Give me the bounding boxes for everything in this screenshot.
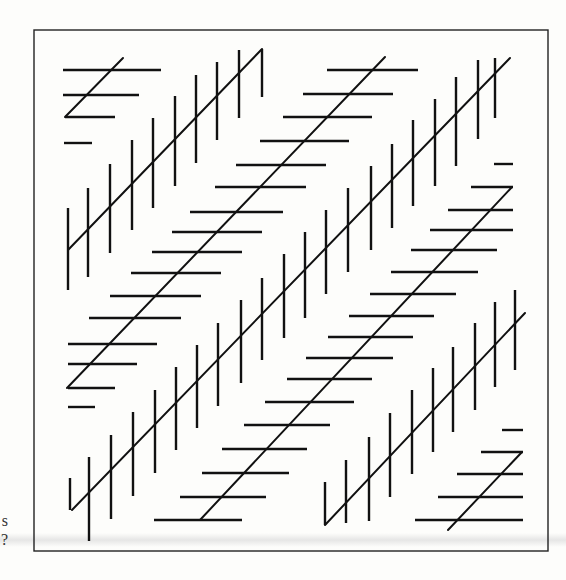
diagonal-line	[68, 49, 262, 250]
band-f-vertical-ticks	[325, 290, 525, 525]
band-e-horizontal-ticks	[154, 164, 513, 520]
diagonal-line	[65, 58, 123, 117]
margin-text-question: ?	[0, 532, 8, 548]
diagonal-line	[72, 58, 510, 510]
document-page: s ?	[0, 0, 566, 580]
diagonal-line	[200, 187, 512, 520]
band-d-vertical-ticks	[70, 58, 510, 541]
band-g-horizontal-ticks	[415, 430, 523, 530]
hatched-bands	[63, 49, 525, 541]
band-c-horizontal-ticks	[67, 57, 418, 407]
band-b-horizontal-ticks	[63, 58, 161, 143]
zollner-illusion-figure	[0, 0, 566, 580]
diagonal-line	[67, 57, 385, 388]
diagonal-line	[448, 452, 522, 530]
margin-text-s: s	[0, 513, 8, 529]
